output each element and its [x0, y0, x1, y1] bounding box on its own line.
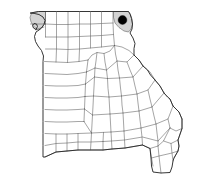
highlighted-county-dot	[118, 16, 127, 25]
county-boundary-lines	[31, 12, 183, 174]
missouri-county-locator-map: Outline map of Missouri showing county b…	[0, 0, 217, 185]
missouri-state-outline	[31, 12, 183, 174]
marker-group	[118, 16, 127, 25]
state-boundary-group	[31, 12, 183, 174]
map-svg-canvas	[0, 0, 217, 185]
